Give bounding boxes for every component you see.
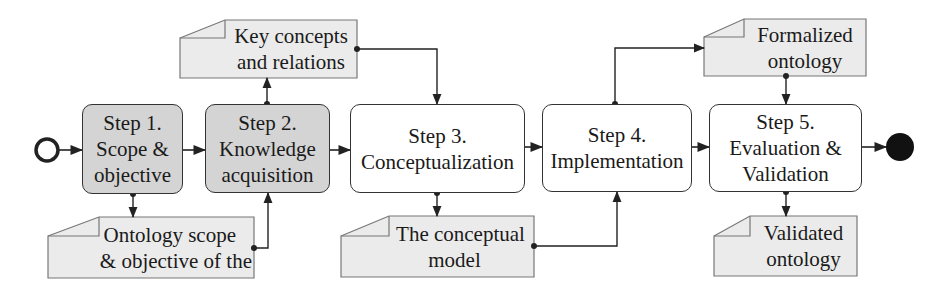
connector-formalized-to-step5 xyxy=(783,73,789,104)
connector-step1-to-scope xyxy=(130,191,136,217)
doc-concepts-line2: and relations xyxy=(237,49,345,75)
doc-scope-line2: & objective of the xyxy=(100,248,252,274)
doc-formalized-line1: Formalized xyxy=(757,22,853,48)
step-1-label-line2: objective xyxy=(94,162,171,188)
doc-concepts-label: Key concepts and relations xyxy=(225,20,357,78)
step-4-box: Step 4. Implementation xyxy=(542,104,692,192)
step-3-box: Step 3. Conceptualization xyxy=(350,104,525,193)
step-5-label-line1: Evaluation & xyxy=(729,135,842,161)
step-1-box: Step 1. Scope & objective xyxy=(82,104,183,194)
step-2-label-line1: Knowledge xyxy=(219,136,316,162)
step-3-label: Conceptualization xyxy=(361,149,514,175)
doc-formalized-label: Formalized ontology xyxy=(744,19,866,76)
end-event-icon xyxy=(886,133,914,161)
doc-validated-line1: Validated xyxy=(764,220,843,246)
doc-concepts-line1: Key concepts xyxy=(234,23,348,49)
doc-scope-label: Ontology scope & objective of the xyxy=(84,217,252,278)
step-4-label: Implementation xyxy=(551,148,684,174)
step-5-box: Step 5. Evaluation & Validation xyxy=(709,104,862,192)
step-4-title: Step 4. xyxy=(588,122,646,148)
doc-validated-label: Validated ontology xyxy=(750,216,857,276)
doc-scope-line1: Ontology scope xyxy=(104,222,252,248)
doc-formalized-line2: ontology xyxy=(768,48,843,74)
step-1-title: Step 1. xyxy=(103,110,161,136)
connector-concepts-to-step3 xyxy=(354,46,437,104)
connector-step4-to-formalized xyxy=(612,48,704,107)
step-3-title: Step 3. xyxy=(408,123,466,149)
connector-step3-to-conceptual-model xyxy=(434,190,440,216)
doc-conceptual-model-line1: The conceptual xyxy=(384,221,525,247)
connector-step2-to-concepts xyxy=(264,78,270,107)
doc-conceptual-model-line2: model xyxy=(428,247,481,273)
step-2-title: Step 2. xyxy=(238,110,296,136)
connector-step5-to-validated xyxy=(783,189,789,216)
doc-conceptual-model-label: The conceptual model xyxy=(375,216,534,277)
step-1-label-line1: Scope & xyxy=(96,136,169,162)
doc-validated-line2: ontology xyxy=(766,246,841,272)
connector-conceptual-model-to-step4 xyxy=(531,192,617,249)
step-2-box: Step 2. Knowledge acquisition xyxy=(205,104,330,193)
step-5-title: Step 5. xyxy=(756,109,814,135)
step-2-label-line2: acquisition xyxy=(221,162,313,188)
start-event-icon xyxy=(36,139,58,161)
step-5-label-line2: Validation xyxy=(742,161,828,187)
